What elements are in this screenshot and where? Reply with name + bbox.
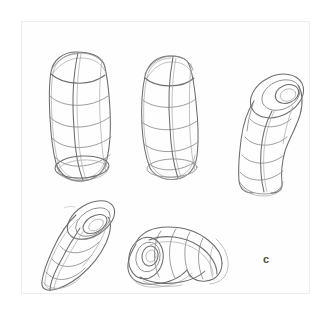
figure-2-upright-rounded-cylinder-center	[142, 56, 198, 180]
figure-5-horizontal-bent-tube-center	[124, 227, 228, 287]
figure-1-upright-rounded-cylinder-left	[49, 52, 111, 181]
figure-3-bent-tube-upright-right	[239, 65, 311, 196]
figure-label-c: c	[263, 253, 269, 265]
sketch-page: c	[0, 0, 332, 310]
figure-4-tilted-cylinder-open-top-left	[42, 193, 122, 291]
sketch-drawing-canvas	[0, 0, 332, 310]
